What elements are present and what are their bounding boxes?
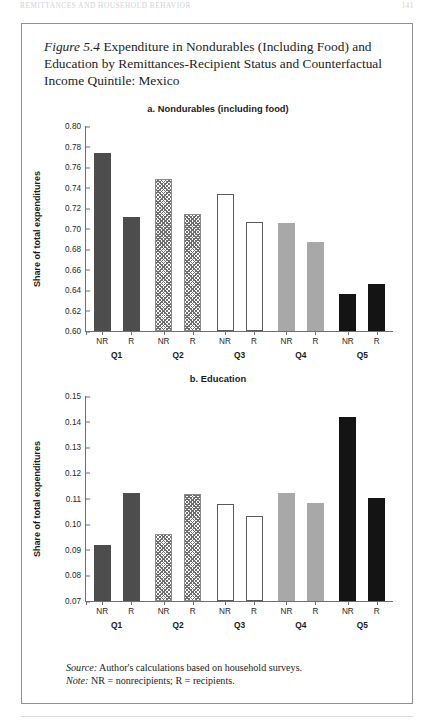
x-axis-sublabel: NR <box>219 337 231 346</box>
chart-panel-education: b. Education Share of total expenditures… <box>22 374 414 649</box>
panel-b-axes: 0.150.140.130.120.110.100.090.080.07NRRN… <box>85 396 393 602</box>
figure-caption: Figure 5.4 Expenditure in Nondurables (I… <box>44 38 394 90</box>
bar-q1-r <box>123 493 140 601</box>
x-axis-group-label-q1: Q1 <box>111 620 122 630</box>
panel-b-y-axis-label: Share of total expenditures <box>30 396 44 602</box>
y-axis-tick-label: 0.13 <box>65 443 86 452</box>
y-axis-tick-label: 0.09 <box>65 545 86 554</box>
x-axis-sublabel: NR <box>158 607 170 616</box>
x-axis-group-label-q5: Q5 <box>357 350 368 360</box>
bar-q4-nr <box>278 223 295 331</box>
y-axis-tick-label: 0.74 <box>65 183 86 192</box>
x-axis-sublabel: NR <box>96 337 108 346</box>
x-axis-tick <box>286 331 287 335</box>
x-axis-tick <box>193 331 194 335</box>
x-axis-tick <box>348 331 349 335</box>
running-head-page-number: 141 <box>401 2 414 10</box>
x-axis-group-label-q4: Q4 <box>295 620 306 630</box>
x-axis-group-label-q3: Q3 <box>234 620 245 630</box>
panel-a-title: a. Nondurables (including food) <box>22 104 414 114</box>
y-axis-tick-label: 0.76 <box>65 163 86 172</box>
x-axis-tick <box>377 601 378 605</box>
x-axis-tick <box>377 331 378 335</box>
x-axis-tick <box>131 601 132 605</box>
x-axis-sublabel: R <box>251 337 257 346</box>
bar-q4-r <box>307 503 324 601</box>
x-axis-tick <box>225 331 226 335</box>
x-axis-tick <box>315 601 316 605</box>
y-axis-tick-label: 0.60 <box>65 327 86 336</box>
x-axis-sublabel: R <box>128 337 134 346</box>
x-axis-tick <box>315 331 316 335</box>
y-axis-tick-label: 0.72 <box>65 204 86 213</box>
bar-q4-r <box>307 242 324 331</box>
panel-a-y-axis-label: Share of total expenditures <box>30 126 44 332</box>
chart-panel-nondurables: a. Nondurables (including food) Share of… <box>22 104 414 379</box>
bar-q1-nr <box>94 153 111 331</box>
x-axis-sublabel: NR <box>342 337 354 346</box>
source-line: Source: Author's calculations based on h… <box>66 661 396 674</box>
y-axis-tick-label: 0.12 <box>65 468 86 477</box>
x-axis-sublabel: NR <box>96 607 108 616</box>
figure-number: Figure 5.4 <box>44 39 100 54</box>
y-axis-tick-label: 0.64 <box>65 286 86 295</box>
bar-q5-r <box>368 498 385 601</box>
y-axis-tick-label: 0.10 <box>65 520 86 529</box>
bar-q3-r <box>246 516 263 601</box>
bar-q3-r <box>246 222 263 331</box>
bar-q2-r <box>184 214 201 331</box>
panel-b-plot-area: 0.150.140.130.120.110.100.090.080.07NRRN… <box>85 396 393 602</box>
figure-frame: Figure 5.4 Expenditure in Nondurables (I… <box>21 23 413 704</box>
x-axis-sublabel: R <box>190 607 196 616</box>
bar-q5-r <box>368 284 385 331</box>
bar-q3-nr <box>217 504 234 601</box>
y-axis-tick-label: 0.14 <box>65 417 86 426</box>
bar-q1-r <box>123 217 140 331</box>
running-head: REMITTANCES AND HOUSEHOLD BEHAVIOR 141 <box>20 2 414 14</box>
panel-a-axes: 0.800.780.760.740.720.700.680.660.640.62… <box>85 126 393 332</box>
y-axis-tick-label: 0.08 <box>65 571 86 580</box>
source-label: Source: <box>66 662 97 673</box>
x-axis-tick <box>254 601 255 605</box>
bar-q2-r <box>184 494 201 601</box>
x-axis-tick <box>225 601 226 605</box>
x-axis-sublabel: NR <box>219 607 231 616</box>
x-axis-sublabel: R <box>190 337 196 346</box>
x-axis-sublabel: R <box>128 607 134 616</box>
page-bottom-rule <box>21 716 413 717</box>
x-axis-tick <box>348 601 349 605</box>
x-axis-sublabel: R <box>251 607 257 616</box>
bar-q3-nr <box>217 194 234 331</box>
y-axis-tick-label: 0.15 <box>65 392 86 401</box>
note-label: Note: <box>66 675 88 686</box>
figure-notes: Source: Author's calculations based on h… <box>66 661 396 688</box>
bar-q4-nr <box>278 493 295 601</box>
y-axis-tick-label: 0.80 <box>65 122 86 131</box>
panel-b-title: b. Education <box>22 374 414 384</box>
x-axis-origin-tick <box>86 601 87 605</box>
y-axis-tick-label: 0.11 <box>66 494 86 503</box>
panel-a-plot-area: 0.800.780.760.740.720.700.680.660.640.62… <box>85 126 393 332</box>
x-axis-tick <box>286 601 287 605</box>
x-axis-sublabel: NR <box>158 337 170 346</box>
bar-q5-nr <box>339 417 356 601</box>
source-text: Author's calculations based on household… <box>97 662 302 673</box>
x-axis-tick <box>102 601 103 605</box>
bar-q2-nr <box>155 179 172 331</box>
x-axis-sublabel: NR <box>342 607 354 616</box>
y-axis-tick-label: 0.78 <box>65 142 86 151</box>
note-text: NR = nonrecipients; R = recipients. <box>88 675 234 686</box>
x-axis-group-label-q4: Q4 <box>295 350 306 360</box>
note-line: Note: NR = nonrecipients; R = recipients… <box>66 674 396 687</box>
x-axis-tick <box>131 331 132 335</box>
x-axis-origin-tick <box>86 331 87 335</box>
x-axis-sublabel: R <box>312 607 318 616</box>
x-axis-tick <box>164 331 165 335</box>
bar-q1-nr <box>94 545 111 601</box>
y-axis-tick-label: 0.66 <box>65 265 86 274</box>
y-axis-tick-label: 0.68 <box>65 245 86 254</box>
y-axis-tick-label: 0.07 <box>65 597 86 606</box>
x-axis-group-label-q1: Q1 <box>111 350 122 360</box>
y-axis-tick-label: 0.62 <box>65 306 86 315</box>
x-axis-sublabel: R <box>374 607 380 616</box>
